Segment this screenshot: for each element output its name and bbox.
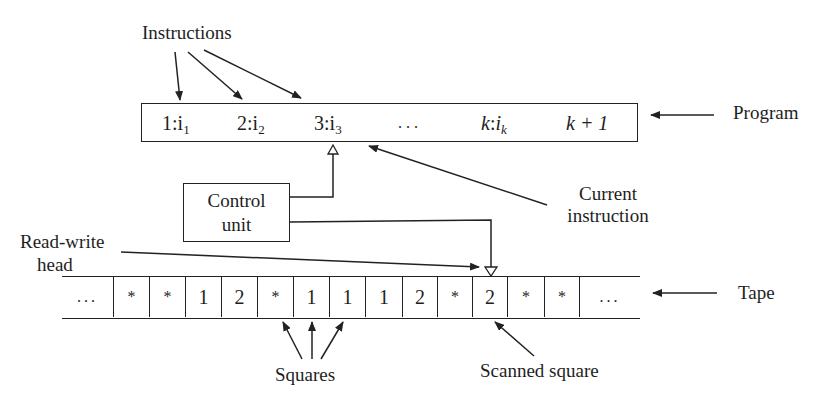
control-unit-line1: Control (184, 189, 289, 213)
control-unit-box: Control unit (183, 183, 290, 242)
control-unit-line2: unit (184, 213, 289, 237)
program-ellipsis: . . . (398, 114, 418, 132)
arrow-instruction-2 (188, 52, 242, 99)
arrow-square-1 (283, 322, 302, 359)
program-label: Program (733, 102, 798, 124)
squares-label: Squares (275, 364, 335, 386)
tape-cell: * (507, 277, 544, 317)
diagram-connectors (0, 0, 827, 407)
tape-cell: 1 (329, 277, 365, 317)
program-instruction-3: 3:i3 (314, 112, 342, 138)
program-instruction-2: 2:i2 (237, 112, 265, 138)
instructions-label: Instructions (142, 22, 232, 44)
current-instruction-line1: Current (548, 183, 668, 205)
tape-cell: 2 (402, 277, 437, 317)
tape-cell: 1 (293, 277, 329, 317)
tape-cell: * (113, 277, 149, 317)
scanned-square-label: Scanned square (480, 360, 599, 382)
tape-cell-ellipsis-right: ... (579, 277, 640, 317)
read-write-head-label: Read-write head (20, 230, 104, 276)
arrow-current-instruction (369, 146, 547, 205)
current-instruction-line2: instruction (548, 205, 668, 227)
tape-cell: 1 (365, 277, 402, 317)
tape-cell-scanned: 2 (472, 277, 507, 317)
arrow-square-3 (321, 322, 343, 359)
arrow-scanned-square (495, 322, 534, 356)
current-instruction-label: Current instruction (548, 183, 668, 227)
tape-cell-ellipsis-left: ... (62, 277, 113, 317)
program-box: 1:i1 2:i2 3:i3 . . . k:ik k + 1 (141, 103, 638, 142)
tape-cell: * (149, 277, 185, 317)
tape-cell: * (544, 277, 579, 317)
hollow-arrow-head (485, 267, 497, 276)
program-next-k-plus-1: k + 1 (566, 112, 608, 135)
tape-cell: * (257, 277, 293, 317)
read-write-head-line2: head (20, 253, 104, 276)
program-instruction-k: k:ik (481, 112, 507, 138)
tape: ... * * 1 2 * 1 1 1 2 * 2 * * ... (62, 276, 640, 319)
arrow-instruction-3 (204, 50, 301, 98)
tape-cell: * (437, 277, 472, 317)
hollow-arrow-program (328, 145, 338, 154)
line-control-to-program (290, 154, 333, 197)
arrow-instruction-1 (175, 52, 180, 100)
tape-cell: 2 (221, 277, 257, 317)
tape-label: Tape (738, 282, 775, 304)
tape-cell: 1 (185, 277, 221, 317)
arrow-read-write-head (121, 252, 479, 267)
program-instruction-1: 1:i1 (162, 112, 190, 138)
read-write-head-line1: Read-write (20, 230, 104, 253)
